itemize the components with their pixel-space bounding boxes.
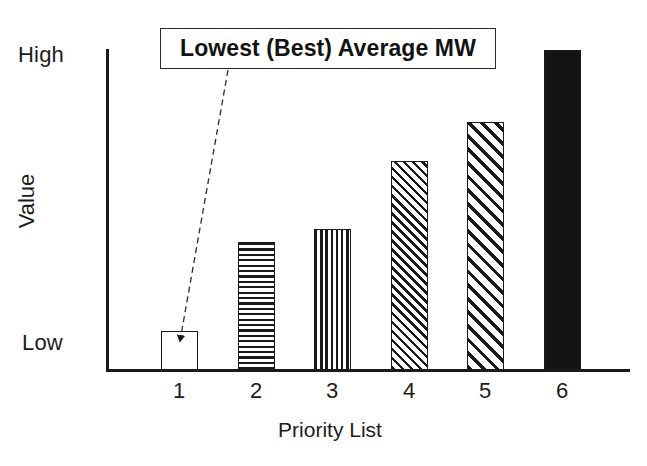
y-axis-low-label: Low	[22, 330, 63, 356]
bar-chart-figure: High Low Value 1 2 3 4 5 6 Priority List…	[0, 0, 647, 466]
bar-6	[544, 50, 581, 370]
bar-4	[391, 161, 428, 370]
bar-5	[467, 122, 504, 370]
bar-2	[238, 242, 275, 370]
x-axis-title: Priority List	[200, 418, 460, 442]
y-axis-line	[106, 49, 109, 371]
annotation-label: Lowest (Best) Average MW	[180, 35, 476, 62]
bar-1	[161, 331, 198, 370]
annotation-callout-box: Lowest (Best) Average MW	[160, 28, 496, 69]
y-axis-high-label: High	[18, 42, 64, 68]
x-tick-5: 5	[465, 378, 505, 404]
x-tick-2: 2	[236, 378, 276, 404]
x-tick-1: 1	[159, 378, 199, 404]
y-axis-title: Value	[14, 156, 40, 246]
x-tick-6: 6	[542, 378, 582, 404]
x-tick-3: 3	[312, 378, 352, 404]
bar-3	[314, 229, 351, 370]
x-tick-4: 4	[389, 378, 429, 404]
